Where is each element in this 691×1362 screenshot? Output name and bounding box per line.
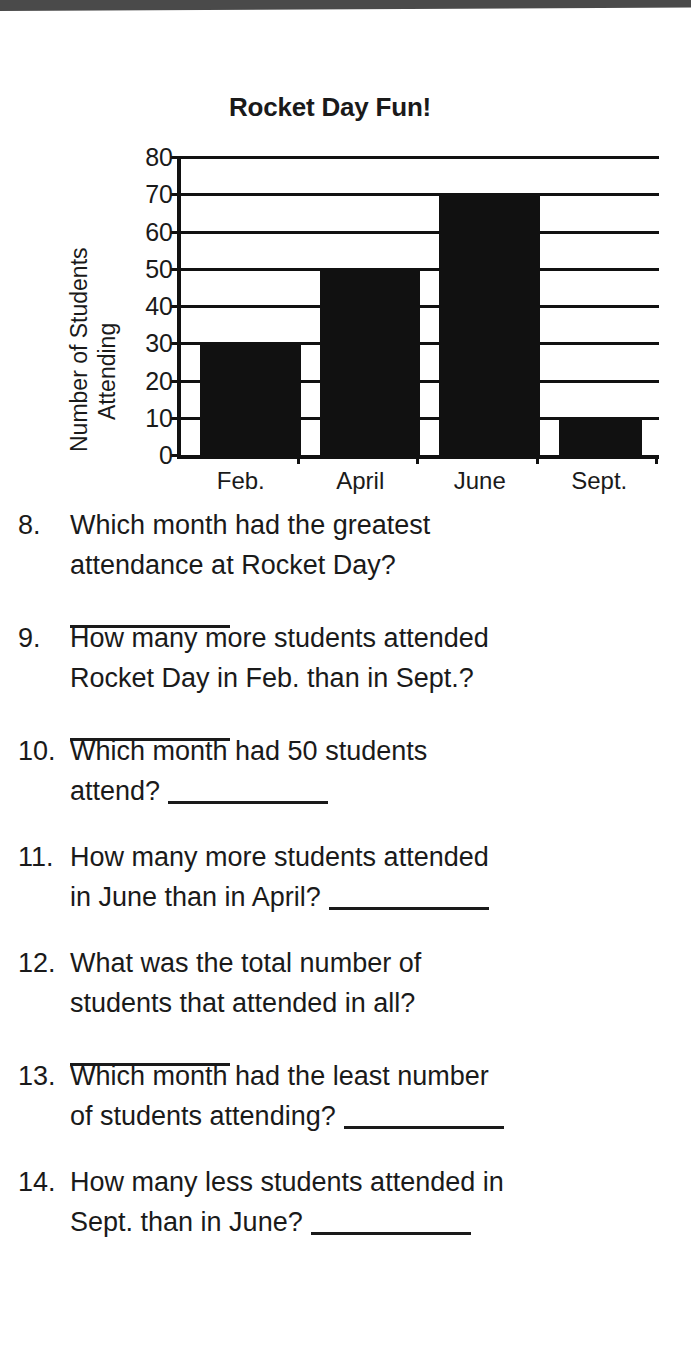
y-tick-label-70: 70: [145, 182, 173, 207]
question-number: 11.: [18, 837, 70, 877]
question-body: How many more students attendedin June t…: [70, 837, 681, 917]
answer-blank[interactable]: [168, 801, 328, 804]
question-text-line: students that attended in all?: [70, 983, 681, 1023]
gridline-60: [181, 231, 659, 234]
gridline-50: [181, 268, 659, 271]
y-tick-label-40: 40: [145, 294, 173, 319]
question-text-line: Sept. than in June?: [70, 1202, 681, 1242]
question-number: 9.: [18, 618, 70, 658]
question-text-line: in June than in April?: [70, 877, 681, 917]
question-spacer: [0, 811, 691, 837]
question-spacer: [0, 604, 691, 618]
bar-june: [439, 194, 540, 455]
answer-blank-row: [70, 1037, 681, 1040]
question-text-line: Which month had the greatest: [70, 505, 681, 545]
question-spacer: [0, 1136, 691, 1162]
question-text-line: of students attending?: [70, 1096, 681, 1136]
y-tick-label-0: 0: [159, 443, 173, 468]
plot-area: 01020304050607080Feb.AprilJuneSept.: [177, 157, 659, 459]
question-spacer: [0, 717, 691, 731]
bar-sept: [559, 418, 643, 455]
x-tick-mark-0: [297, 455, 300, 464]
y-axis-title-line-1: Number of Students: [66, 247, 93, 452]
question-10: 10.Which month had 50 studentsattend?: [0, 731, 691, 811]
question-number: 10.: [18, 731, 70, 771]
question-13: 13.Which month had the least numberof st…: [0, 1056, 691, 1136]
question-number: 8.: [18, 505, 70, 545]
question-text-line: Which month had 50 students: [70, 731, 681, 771]
question-12: 12.What was the total number ofstudents …: [0, 943, 691, 1042]
question-text-line: attendance at Rocket Day?: [70, 545, 681, 585]
question-text-line: How many less students attended in: [70, 1162, 681, 1202]
scan-edge-band: [0, 0, 691, 11]
answer-blank[interactable]: [344, 1126, 504, 1129]
question-14: 14.How many less students attended inSep…: [0, 1162, 691, 1242]
question-9: 9.How many more students attendedRocket …: [0, 618, 691, 717]
y-tick-label-10: 10: [145, 405, 173, 430]
question-spacer: [0, 917, 691, 943]
gridline-80: [181, 156, 659, 159]
x-axis-label-june: June: [454, 467, 506, 495]
question-text-line: How many more students attended: [70, 618, 681, 658]
y-axis-title: Number of Students Attending: [42, 152, 112, 462]
bar-chart: Rocket Day Fun! Number of Students Atten…: [0, 92, 691, 492]
x-axis-label-sept: Sept.: [571, 467, 627, 495]
y-tick-label-60: 60: [145, 219, 173, 244]
gridline-40: [181, 305, 659, 308]
answer-blank[interactable]: [311, 1232, 471, 1235]
question-text-line: attend?: [70, 771, 681, 811]
question-text-line: What was the total number of: [70, 943, 681, 983]
y-tick-label-50: 50: [145, 256, 173, 281]
gridline-70: [181, 193, 659, 196]
question-body: How many more students attendedRocket Da…: [70, 618, 681, 717]
bar-feb: [200, 343, 301, 455]
y-axis-title-line-2: Attending: [94, 323, 121, 420]
bar-april: [320, 269, 421, 455]
question-number: 12.: [18, 943, 70, 983]
question-list: 8.Which month had the greatestattendance…: [0, 505, 691, 1242]
y-tick-label-80: 80: [145, 145, 173, 170]
question-text-line: How many more students attended: [70, 837, 681, 877]
answer-blank-row: [70, 712, 681, 715]
y-tick-label-30: 30: [145, 331, 173, 356]
x-tick-mark-1: [416, 455, 419, 464]
x-axis-label-april: April: [336, 467, 384, 495]
answer-blank-row: [70, 599, 681, 602]
question-text-line: Which month had the least number: [70, 1056, 681, 1096]
question-11: 11.How many more students attendedin Jun…: [0, 837, 691, 917]
question-text-line: Rocket Day in Feb. than in Sept.?: [70, 658, 681, 698]
question-number: 14.: [18, 1162, 70, 1202]
question-spacer: [0, 1042, 691, 1056]
x-tick-mark-3: [655, 455, 658, 464]
question-number: 13.: [18, 1056, 70, 1096]
chart-title: Rocket Day Fun!: [0, 92, 660, 123]
question-body: Which month had 50 studentsattend?: [70, 731, 681, 811]
question-body: What was the total number ofstudents tha…: [70, 943, 681, 1042]
y-tick-label-20: 20: [145, 368, 173, 393]
question-body: Which month had the greatestattendance a…: [70, 505, 681, 604]
x-tick-mark-2: [536, 455, 539, 464]
question-8: 8.Which month had the greatestattendance…: [0, 505, 691, 604]
answer-blank[interactable]: [329, 907, 489, 910]
question-body: How many less students attended inSept. …: [70, 1162, 681, 1242]
x-axis-label-feb: Feb.: [217, 467, 265, 495]
question-body: Which month had the least numberof stude…: [70, 1056, 681, 1136]
